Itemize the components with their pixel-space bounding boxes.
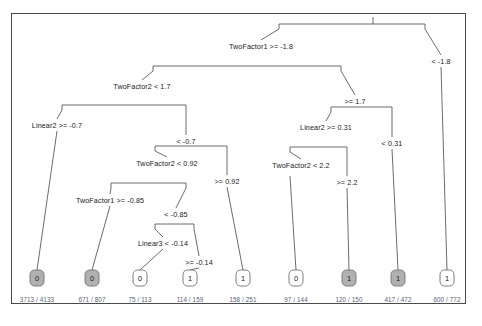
- split-label: Linear2 >= -0.7: [32, 121, 82, 130]
- split-label: < -1.8: [431, 57, 450, 66]
- split-label: < -0.85: [164, 210, 187, 219]
- leaf-count-label: 97 / 144: [284, 296, 308, 303]
- split-label: Linear2 >= 0.31: [300, 123, 352, 132]
- split-label: TwoFactor2 < 0.92: [136, 159, 197, 168]
- split-label: < 0.31: [382, 139, 403, 148]
- decision-tree-figure: TwoFactor1 >= -1.8TwoFactor2 < 1.7Linear…: [0, 0, 482, 326]
- leaf-node: 0: [133, 270, 148, 287]
- leaf-node: 1: [236, 270, 251, 287]
- leaf-count-label: 417 / 472: [384, 296, 411, 303]
- leaf-node: 1: [183, 270, 198, 287]
- leaf-count-label: 3713 / 4133: [20, 296, 54, 303]
- leaf-count-label: 600 / 772: [433, 296, 460, 303]
- leaf-node: 0: [85, 270, 100, 287]
- split-label: TwoFactor2 < 2.2: [272, 161, 329, 170]
- leaf-node: 1: [440, 270, 455, 287]
- split-label: Linear3 < -0.14: [138, 239, 188, 248]
- leaf-count-label: 158 / 251: [229, 296, 256, 303]
- split-label: >= 1.7: [345, 97, 366, 106]
- leaf-node: 1: [391, 270, 406, 287]
- leaf-count-label: 75 / 113: [128, 296, 151, 303]
- split-label: < -0.7: [176, 137, 195, 146]
- leaf-node: 0: [30, 270, 45, 287]
- split-label: TwoFactor1 >= -1.8: [229, 42, 293, 51]
- leaf-node: 1: [342, 270, 357, 287]
- leaf-count-label: 114 / 159: [177, 296, 204, 303]
- split-label: TwoFactor2 < 1.7: [113, 82, 170, 91]
- leaf-count-label: 120 / 150: [335, 296, 362, 303]
- split-label: >= 2.2: [337, 178, 358, 187]
- plot-frame: [11, 13, 466, 304]
- split-label: >= 0.92: [214, 177, 239, 186]
- leaf-count-label: 671 / 807: [78, 296, 105, 303]
- split-label: TwoFactor1 >= -0.85: [76, 196, 144, 205]
- leaf-node: 0: [289, 270, 304, 287]
- split-label: >= -0.14: [185, 258, 213, 267]
